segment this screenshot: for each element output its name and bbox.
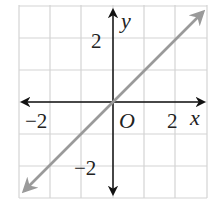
y-axis-label: y bbox=[119, 8, 131, 33]
coordinate-plane: y x O 2 −2 −2 2 bbox=[0, 0, 220, 207]
x-axis-label: x bbox=[189, 105, 200, 130]
x-tick-neg: −2 bbox=[25, 109, 47, 133]
y-tick-pos: 2 bbox=[91, 29, 102, 53]
y-tick-neg: −2 bbox=[74, 156, 96, 180]
x-tick-pos: 2 bbox=[167, 109, 178, 133]
origin-label: O bbox=[119, 108, 135, 133]
